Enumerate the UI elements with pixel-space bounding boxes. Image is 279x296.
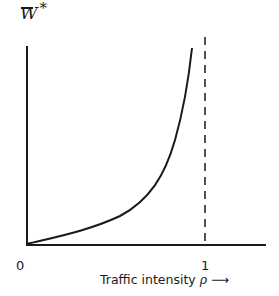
chart-canvas xyxy=(0,0,279,296)
response-curve xyxy=(27,48,192,244)
y-axis-symbol: W xyxy=(20,3,37,23)
arrow-icon: ⟶ xyxy=(207,272,229,287)
x-tick-origin: 0 xyxy=(16,258,24,273)
x-tick-one: 1 xyxy=(201,258,209,273)
overbar xyxy=(21,7,33,9)
x-axis-text: Traffic intensity xyxy=(100,272,200,287)
y-axis-label: W* xyxy=(20,3,45,23)
y-axis-star: * xyxy=(39,0,47,17)
x-axis-label: Traffic intensity ρ ⟶ xyxy=(100,272,229,287)
rho-symbol: ρ xyxy=(200,272,207,287)
